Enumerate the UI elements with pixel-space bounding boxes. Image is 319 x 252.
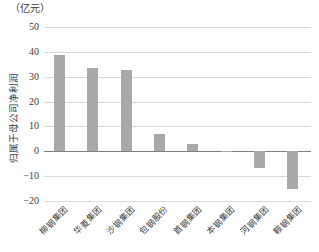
x-axis-label: 首钢集团 bbox=[166, 204, 204, 242]
x-axis-label: 本钢集团 bbox=[199, 204, 237, 242]
bar bbox=[187, 144, 198, 151]
bar bbox=[54, 55, 65, 151]
x-axis-label: 华菱集团 bbox=[66, 204, 104, 242]
bar bbox=[121, 70, 132, 152]
bar bbox=[154, 134, 165, 151]
y-tick-label: 30 bbox=[29, 72, 39, 82]
x-axis-label: 包钢股份 bbox=[132, 204, 170, 242]
y-tick-label: 40 bbox=[29, 47, 39, 57]
x-axis-label: 鞍钢集团 bbox=[266, 204, 304, 242]
y-tick-label: 10 bbox=[29, 121, 39, 131]
y-tick-label: −10 bbox=[23, 171, 39, 181]
zero-line bbox=[44, 151, 311, 152]
gridline bbox=[44, 77, 311, 78]
gridline bbox=[44, 52, 311, 53]
unit-label: （亿元） bbox=[10, 3, 50, 15]
bar bbox=[287, 151, 298, 189]
y-axis-title: 归属于母公司净利润 bbox=[9, 48, 20, 188]
y-tick-label: 50 bbox=[29, 22, 39, 32]
gridline bbox=[44, 102, 311, 103]
gridline bbox=[44, 176, 311, 177]
bar bbox=[221, 151, 232, 152]
x-axis-label: 河钢集团 bbox=[232, 204, 270, 242]
bar bbox=[254, 151, 265, 168]
gridline bbox=[44, 27, 311, 28]
x-axis-label: 柳钢集团 bbox=[32, 204, 70, 242]
y-tick-label: 0 bbox=[34, 146, 39, 156]
y-tick-label: 20 bbox=[29, 97, 39, 107]
bar bbox=[87, 68, 98, 151]
gridline bbox=[44, 201, 311, 202]
gridline bbox=[44, 126, 311, 127]
bar-chart: （亿元） 归属于母公司净利润 50403020100−10−20 柳钢集团华菱集… bbox=[0, 0, 319, 252]
y-tick-label: −20 bbox=[23, 196, 39, 206]
x-axis-label: 沙钢集团 bbox=[99, 204, 137, 242]
plot-area: 50403020100−10−20 bbox=[44, 27, 311, 201]
